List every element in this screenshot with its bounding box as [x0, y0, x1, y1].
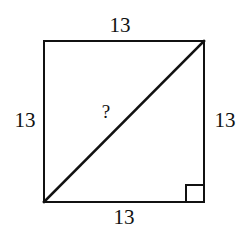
side-label-top: 13	[110, 15, 131, 36]
side-label-left: 13	[15, 110, 36, 131]
diagonal-line	[44, 41, 204, 202]
right-angle-marker-icon	[186, 185, 203, 202]
geometry-figure: 13 13 13 13 ?	[0, 0, 251, 230]
side-label-bottom: 13	[114, 207, 135, 228]
diagonal-unknown-label: ?	[102, 102, 110, 121]
side-label-right: 13	[215, 110, 236, 131]
